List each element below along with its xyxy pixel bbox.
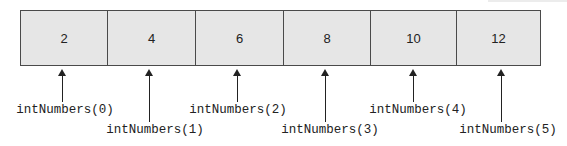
index-label-4: intNumbers(4) xyxy=(369,103,467,117)
array-cell-0: 2 xyxy=(21,11,108,65)
top-edge-line xyxy=(488,0,567,2)
cell-value: 12 xyxy=(491,31,505,46)
cell-value: 2 xyxy=(60,31,67,46)
index-label-3: intNumbers(3) xyxy=(281,123,379,137)
array-cell-4: 10 xyxy=(371,11,457,65)
arrow-up-icon xyxy=(237,75,238,102)
cell-value: 8 xyxy=(323,31,330,46)
cell-value: 6 xyxy=(236,31,243,46)
cell-value: 4 xyxy=(148,31,155,46)
array-cell-5: 12 xyxy=(457,11,540,65)
index-label-2: intNumbers(2) xyxy=(189,103,287,117)
array-row: 2 4 6 8 10 12 xyxy=(20,10,541,66)
array-cell-2: 6 xyxy=(196,11,284,65)
arrow-up-icon xyxy=(62,75,63,102)
arrow-up-icon xyxy=(413,75,414,102)
index-label-0: intNumbers(0) xyxy=(16,103,114,117)
array-cell-3: 8 xyxy=(284,11,371,65)
array-cell-1: 4 xyxy=(108,11,196,65)
arrow-up-icon xyxy=(325,75,326,122)
index-label-1: intNumbers(1) xyxy=(106,123,204,137)
cell-value: 10 xyxy=(406,31,420,46)
arrow-up-icon xyxy=(501,75,502,122)
index-label-5: intNumbers(5) xyxy=(459,123,557,137)
arrow-up-icon xyxy=(149,75,150,122)
